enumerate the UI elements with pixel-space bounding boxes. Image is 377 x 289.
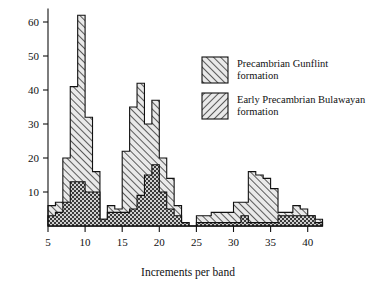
legend-label-bulawayan-line1: Early Precambrian Bulawayan (237, 94, 366, 105)
x-tick-label: 20 (154, 236, 166, 248)
chart-legend: Precambrian Gunflint formation Early Pre… (202, 57, 366, 119)
x-tick-label: 30 (228, 236, 240, 248)
y-tick-label: 30 (28, 118, 40, 130)
x-tick-label: 10 (80, 236, 92, 248)
x-tick-label: 15 (117, 236, 129, 248)
histogram-figure: 102030405060 510152025303540 Increments … (0, 0, 377, 289)
x-tick-label: 5 (45, 236, 51, 248)
y-tick-label: 40 (28, 84, 40, 96)
plot-area (48, 15, 323, 226)
legend-label-gunflint-line2: formation (237, 70, 279, 81)
y-tick-label: 50 (28, 50, 40, 62)
bulawayan-swatch (202, 93, 228, 119)
x-axis-ticks: 510152025303540 (45, 226, 313, 248)
y-axis: 102030405060 (28, 8, 48, 226)
gunflint-swatch (202, 57, 228, 83)
legend-label-gunflint-line1: Precambrian Gunflint (237, 58, 328, 69)
x-tick-label: 35 (265, 236, 277, 248)
chart-svg: 102030405060 510152025303540 Increments … (0, 0, 377, 289)
y-tick-label: 60 (28, 16, 40, 28)
y-tick-label: 20 (28, 152, 40, 164)
y-tick-label: 10 (28, 186, 40, 198)
x-axis: 510152025303540 (45, 226, 322, 248)
x-tick-label: 25 (191, 236, 203, 248)
legend-label-bulawayan-line2: formation (237, 106, 279, 117)
x-tick-label: 40 (302, 236, 314, 248)
y-axis-ticks: 102030405060 (28, 16, 48, 198)
x-axis-title: Increments per band (141, 266, 235, 279)
